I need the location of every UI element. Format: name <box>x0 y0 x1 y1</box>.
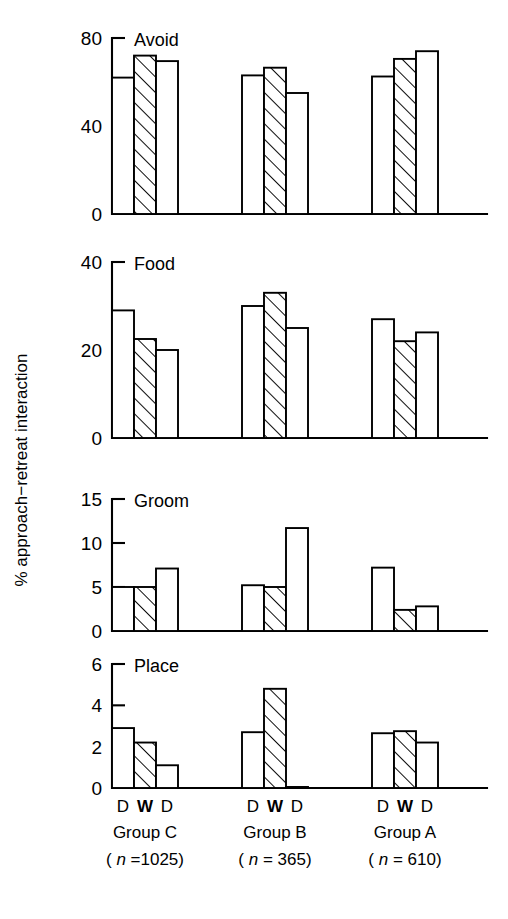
bar-place-group-a-D2 <box>416 743 438 788</box>
bar-groom-group-a-D0 <box>372 568 394 631</box>
x-group-group-b: DWDGroup B( n = 365) <box>238 797 311 869</box>
bar-groom-group-a-D2 <box>416 606 438 631</box>
y-axis-title-text: % approach−retreat interaction <box>12 354 31 587</box>
group-name-label: Group A <box>374 823 437 842</box>
bar-avoid-group-b-D2 <box>286 93 308 214</box>
group-sample-size-label: ( n = 610) <box>368 850 441 869</box>
x-tick-label-w-1: W <box>397 797 414 816</box>
bar-place-group-b-D2 <box>286 787 308 788</box>
bar-avoid-group-c-D2 <box>156 61 178 214</box>
y-tick-label-20: 20 <box>81 340 102 361</box>
bar-food-group-a-D2 <box>416 332 438 438</box>
group-name-label: Group B <box>243 823 306 842</box>
bar-place-group-b-W1 <box>264 689 286 788</box>
bar-food-group-c-D0 <box>112 310 134 438</box>
bar-avoid-group-a-D0 <box>372 77 394 215</box>
bar-groom-group-c-W1 <box>134 587 156 631</box>
bar-food-group-b-D2 <box>286 328 308 438</box>
y-tick-label-0: 0 <box>91 778 102 799</box>
x-tick-label-w-1: W <box>137 797 154 816</box>
y-tick-label-80: 80 <box>81 28 102 49</box>
bar-groom-group-c-D0 <box>112 587 134 631</box>
bar-avoid-group-c-W1 <box>134 56 156 214</box>
bar-food-group-a-D0 <box>372 319 394 438</box>
panel-label-groom: Groom <box>134 491 189 511</box>
y-tick-label-4: 4 <box>91 695 102 716</box>
y-tick-label-0: 0 <box>91 428 102 449</box>
bar-avoid-group-b-D0 <box>242 75 264 214</box>
x-tick-label-d-2: D <box>421 797 433 816</box>
x-tick-label-d-0: D <box>117 797 129 816</box>
x-tick-label-w-1: W <box>267 797 284 816</box>
panel-label-food: Food <box>134 254 175 274</box>
y-axis-title: % approach−retreat interaction <box>12 354 31 587</box>
y-tick-label-10: 10 <box>81 533 102 554</box>
x-tick-label-d-0: D <box>377 797 389 816</box>
y-tick-label-40: 40 <box>81 252 102 273</box>
panel-label-place: Place <box>134 656 179 676</box>
x-tick-label-d-0: D <box>247 797 259 816</box>
bar-food-group-c-D2 <box>156 350 178 438</box>
bar-groom-group-b-D2 <box>286 528 308 631</box>
figure-container: % approach−retreat interaction 04080Avoi… <box>0 0 508 919</box>
y-tick-label-5: 5 <box>91 577 102 598</box>
x-group-group-a: DWDGroup A( n = 610) <box>368 797 441 869</box>
y-tick-label-40: 40 <box>81 116 102 137</box>
x-group-group-c: DWDGroup C( n =1025) <box>106 797 184 869</box>
bar-food-group-c-W1 <box>134 339 156 438</box>
group-sample-size-label: ( n =1025) <box>106 850 184 869</box>
bar-place-group-a-W1 <box>394 731 416 788</box>
bar-food-group-b-D0 <box>242 306 264 438</box>
bar-avoid-group-a-D2 <box>416 51 438 214</box>
panel-label-avoid: Avoid <box>134 30 179 50</box>
bar-place-group-c-W1 <box>134 743 156 788</box>
x-tick-label-d-2: D <box>291 797 303 816</box>
bar-groom-group-c-D2 <box>156 569 178 631</box>
bar-place-group-a-D0 <box>372 733 394 788</box>
bar-place-group-c-D2 <box>156 765 178 788</box>
approach-retreat-interaction-chart: % approach−retreat interaction 04080Avoi… <box>0 0 508 919</box>
bar-groom-group-a-W1 <box>394 610 416 631</box>
y-tick-label-0: 0 <box>91 204 102 225</box>
y-tick-label-6: 6 <box>91 654 102 675</box>
y-tick-label-0: 0 <box>91 621 102 642</box>
y-tick-label-15: 15 <box>81 489 102 510</box>
bar-avoid-group-a-W1 <box>394 59 416 214</box>
bar-food-group-a-W1 <box>394 341 416 438</box>
bar-food-group-b-W1 <box>264 293 286 438</box>
group-sample-size-label: ( n = 365) <box>238 850 311 869</box>
x-tick-label-d-2: D <box>161 797 173 816</box>
group-name-label: Group C <box>113 823 177 842</box>
bar-place-group-c-D0 <box>112 728 134 788</box>
bar-avoid-group-c-D0 <box>112 78 134 214</box>
bar-groom-group-b-D0 <box>242 585 264 631</box>
bar-place-group-b-D0 <box>242 732 264 788</box>
y-tick-label-2: 2 <box>91 737 102 758</box>
bar-avoid-group-b-W1 <box>264 68 286 214</box>
bar-groom-group-b-W1 <box>264 587 286 631</box>
